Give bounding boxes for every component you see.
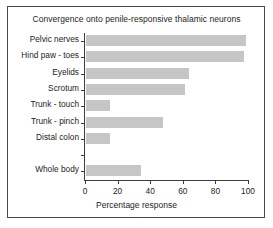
- x-axis-tick: [183, 180, 184, 184]
- bar: [86, 165, 141, 176]
- y-axis-tick-label: Pelvic nerves: [30, 34, 79, 44]
- x-axis-tick-label: 20: [113, 186, 122, 196]
- y-axis-tick: [81, 106, 85, 107]
- x-axis-tick: [150, 180, 151, 184]
- y-axis-tick-label: Whole body: [35, 164, 79, 174]
- chart-title: Convergence onto penile-responsive thala…: [0, 14, 273, 24]
- y-axis-tick-label: Distal colon: [36, 132, 79, 142]
- bar: [86, 117, 163, 128]
- bar: [86, 35, 246, 46]
- x-axis-tick: [118, 180, 119, 184]
- x-axis-tick: [85, 180, 86, 184]
- y-axis-tick: [81, 74, 85, 75]
- x-axis-tick-label: 40: [146, 186, 155, 196]
- y-axis-tick-label: Scrotum: [48, 83, 79, 93]
- x-axis-tick-label: 100: [241, 186, 255, 196]
- y-axis-tick: [81, 123, 85, 124]
- bar: [86, 51, 244, 62]
- y-axis-tick-label: Eyelids: [52, 67, 79, 77]
- x-axis-tick: [215, 180, 216, 184]
- bar: [86, 100, 110, 111]
- bar: [86, 68, 189, 79]
- x-axis-tick-label: 60: [178, 186, 187, 196]
- y-axis-tick: [81, 155, 85, 156]
- y-axis-tick-label: Trunk - touch: [30, 99, 79, 109]
- y-axis-tick-label: Trunk - pinch: [31, 116, 79, 126]
- plot-area: Pelvic nervesHind paw - toesEyelidsScrot…: [85, 33, 248, 180]
- y-axis-tick: [81, 57, 85, 58]
- y-axis-tick: [81, 90, 85, 91]
- y-axis-tick-label: Hind paw - toes: [21, 50, 79, 60]
- y-axis-tick: [81, 139, 85, 140]
- bar: [86, 133, 110, 144]
- chart-figure: Convergence onto penile-responsive thala…: [0, 0, 273, 228]
- x-axis-tick-label: 0: [83, 186, 88, 196]
- x-axis-line: [84, 180, 249, 181]
- x-axis-tick: [248, 180, 249, 184]
- y-axis-tick: [81, 171, 85, 172]
- x-axis-title: Percentage response: [0, 200, 273, 210]
- bar: [86, 84, 185, 95]
- x-axis-tick-label: 80: [211, 186, 220, 196]
- y-axis-tick: [81, 41, 85, 42]
